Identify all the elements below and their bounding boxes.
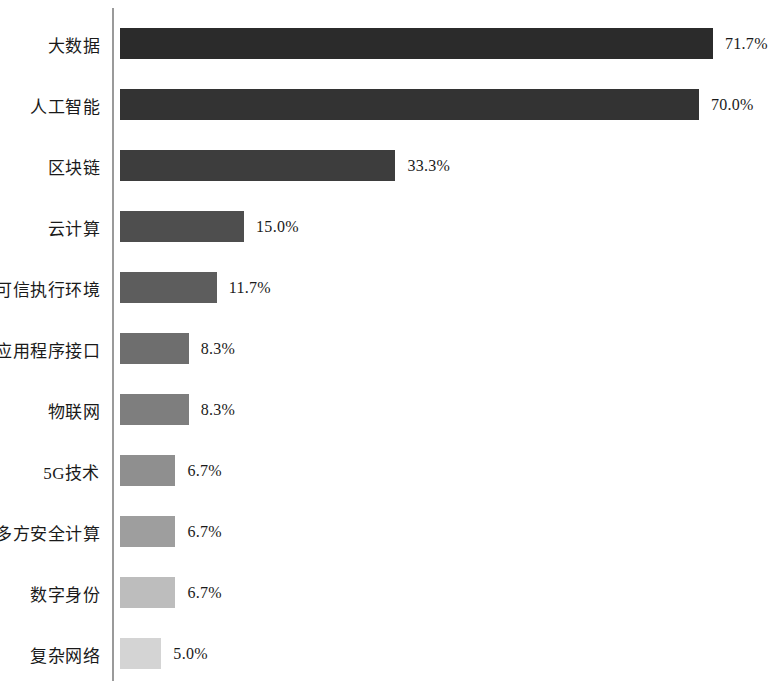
category-label: 大数据 — [48, 31, 101, 56]
category-label: 云计算 — [48, 214, 101, 239]
bar-value-label: 5.0% — [173, 645, 208, 663]
bar-value-label: 11.7% — [229, 279, 271, 297]
bar-value-label: 33.3% — [407, 157, 450, 175]
category-label: 应用程序接口 — [0, 336, 100, 361]
bar-value-label: 71.7% — [725, 35, 768, 53]
bar-value-label: 15.0% — [256, 218, 299, 236]
category-label: 数字身份 — [30, 580, 100, 605]
bar — [120, 516, 175, 547]
bar-chart: 大数据71.7%人工智能70.0%区块链33.3%云计算15.0%可信执行环境1… — [0, 0, 768, 681]
bar-value-label: 6.7% — [187, 523, 222, 541]
bar — [120, 272, 217, 303]
category-label: 多方安全计算 — [0, 519, 100, 544]
bar — [120, 211, 244, 242]
bar-row: 数字身份6.7% — [0, 577, 768, 608]
bar-row: 多方安全计算6.7% — [0, 516, 768, 547]
bar-row: 5G技术6.7% — [0, 455, 768, 486]
bar — [120, 150, 395, 181]
bar-row: 大数据71.7% — [0, 28, 768, 59]
category-label: 区块链 — [48, 153, 101, 178]
bar — [120, 394, 189, 425]
bar-value-label: 6.7% — [187, 462, 222, 480]
bar-row: 云计算15.0% — [0, 211, 768, 242]
bar-value-label: 8.3% — [201, 401, 236, 419]
bar-value-label: 8.3% — [201, 340, 236, 358]
bar-value-label: 6.7% — [187, 584, 222, 602]
bar-row: 可信执行环境11.7% — [0, 272, 768, 303]
bar — [120, 455, 175, 486]
category-label: 物联网 — [48, 397, 101, 422]
bar — [120, 333, 189, 364]
bar-row: 物联网8.3% — [0, 394, 768, 425]
bar-row: 应用程序接口8.3% — [0, 333, 768, 364]
category-label: 5G技术 — [43, 458, 100, 483]
bar — [120, 28, 713, 59]
bar-value-label: 70.0% — [711, 96, 754, 114]
bar-row: 复杂网络5.0% — [0, 638, 768, 669]
bar-row: 人工智能70.0% — [0, 89, 768, 120]
category-label: 人工智能 — [30, 92, 100, 117]
bar — [120, 638, 161, 669]
bar — [120, 577, 175, 608]
category-label: 复杂网络 — [30, 641, 100, 666]
category-label: 可信执行环境 — [0, 275, 100, 300]
bar — [120, 89, 699, 120]
bar-row: 区块链33.3% — [0, 150, 768, 181]
